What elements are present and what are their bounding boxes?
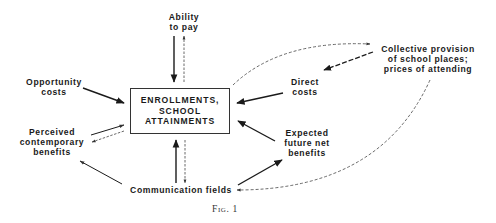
- node-label-line: Ability: [163, 12, 205, 22]
- node-label-line: of school places;: [376, 54, 480, 64]
- node-communication-fields: Communication fields: [126, 185, 236, 195]
- node-label-line: Collective provision: [376, 44, 480, 54]
- node-label-line: future net: [279, 138, 335, 148]
- edge-comm-to-perceived: [80, 161, 122, 184]
- node-label-line: Opportunity: [24, 77, 84, 87]
- center-line-3: ATTAINMENTS: [145, 116, 215, 127]
- node-expected-benefits: Expected future net benefits: [279, 128, 335, 158]
- node-opportunity-costs: Opportunity costs: [24, 77, 84, 97]
- node-label-line: costs: [24, 87, 84, 97]
- diagram-canvas: ENROLLMENTS, SCHOOL ATTAINMENTS Ability …: [0, 0, 496, 223]
- edge-expected-to-center: [238, 121, 275, 141]
- node-collective-provision: Collective provision of school places; p…: [376, 44, 480, 74]
- edge-center-to-perceived: [92, 131, 124, 142]
- node-ability-to-pay: Ability to pay: [163, 12, 205, 32]
- node-label-line: Perceived: [14, 127, 90, 137]
- node-label-line: benefits: [279, 148, 335, 158]
- center-node-enrollments: ENROLLMENTS, SCHOOL ATTAINMENTS: [130, 88, 230, 134]
- diagram-edges: [0, 0, 496, 223]
- edge-perceived-to-center: [91, 125, 124, 135]
- node-label-line: prices of attending: [376, 64, 480, 74]
- figure-caption: Fig. 1: [212, 204, 238, 214]
- node-label-line: Expected: [279, 128, 335, 138]
- node-label-line: contemporary: [14, 137, 90, 147]
- center-line-1: ENROLLMENTS,: [141, 95, 220, 106]
- node-label-line: Communication fields: [126, 185, 236, 195]
- node-label-line: benefits: [14, 147, 90, 157]
- center-line-2: SCHOOL: [159, 106, 201, 117]
- edge-collective-to-direct: [324, 52, 373, 70]
- node-perceived-benefits: Perceived contemporary benefits: [14, 127, 90, 157]
- node-label-line: to pay: [163, 22, 205, 32]
- node-label-line: costs: [283, 87, 327, 97]
- edge-direct-to-center: [237, 93, 283, 103]
- node-label-line: Direct: [283, 77, 327, 87]
- node-direct-costs: Direct costs: [283, 77, 327, 97]
- edge-opportunity-to-center: [83, 88, 124, 103]
- edge-comm-to-expected: [238, 160, 282, 185]
